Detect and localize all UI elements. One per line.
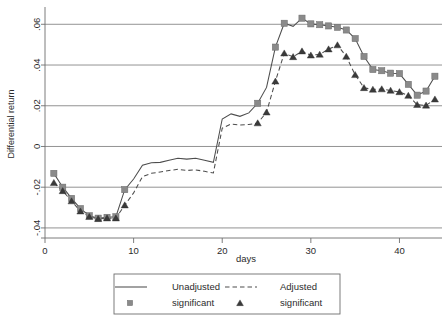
marker-square-17 [343,27,349,33]
marker-square-9 [255,100,261,106]
y-tick-label-3: .02 [31,99,42,112]
marker-square-10 [272,44,278,50]
marker-square-27 [432,73,438,79]
y-tick-label-2: 0 [31,144,42,149]
marker-square-16 [334,24,340,30]
series-line-adjusted [54,45,435,219]
marker-square-19 [361,53,367,59]
marker-triangle-20 [352,71,359,77]
marker-triangle-18 [334,42,341,48]
marker-square-0 [51,170,57,176]
marker-triangle-17 [325,46,332,52]
marker-square-24 [405,81,411,87]
y-axis-title: Differential return [6,90,16,159]
marker-triangle-21 [360,85,367,91]
marker-square-14 [317,22,323,28]
x-tick-labels: 010203040 [42,245,404,256]
chart-axes [41,7,442,238]
marker-square-8 [122,187,128,193]
marker-square-11 [281,20,287,26]
y-tick-labels: -.04-.020.02.04.06 [31,18,42,236]
marker-triangle-28 [422,102,429,108]
x-tick-label-3: 30 [306,245,317,256]
series-line-unadjusted [54,18,435,218]
marker-square-12 [299,15,305,21]
marker-square-25 [414,92,420,98]
marker-triangle-15 [307,52,314,58]
chart-figure: -.04-.020.02.04.06 010203040 Differentia… [0,0,447,317]
y-tick-label-5: .06 [31,18,42,31]
marker-triangle-9 [254,120,261,126]
marker-square-21 [379,68,385,74]
marker-triangle-0 [50,179,57,185]
y-tick-label-1: -.02 [31,179,42,195]
marker-square-23 [396,70,402,76]
y-gridlines [45,24,442,228]
x-tick-label-0: 0 [42,245,47,256]
chart-legend: UnadjustedAdjustedsignificantsignificant [114,274,340,314]
marker-square-22 [388,70,394,76]
series-markers [50,15,438,221]
marker-triangle-11 [272,78,279,84]
x-tick-label-1: 10 [128,245,139,256]
legend-label-1: Adjusted [280,281,317,292]
legend-square-icon [127,300,132,305]
marker-triangle-29 [431,96,438,102]
marker-triangle-8 [121,202,128,208]
marker-triangle-12 [281,50,288,56]
marker-triangle-26 [405,92,412,98]
marker-triangle-13 [290,54,297,60]
x-tick-label-2: 20 [217,245,228,256]
x-tick-label-4: 40 [394,245,405,256]
marker-triangle-10 [263,109,270,115]
series-lines [54,18,435,219]
marker-square-26 [423,88,429,94]
legend-label-0: Unadjusted [172,281,220,292]
differential-return-line-chart: -.04-.020.02.04.06 010203040 Differentia… [0,0,447,317]
marker-square-20 [370,66,376,72]
marker-square-13 [308,21,314,27]
y-tick-label-0: -.04 [31,220,42,236]
x-axis-title: days [236,253,256,264]
marker-triangle-19 [343,53,350,59]
legend-label-2: significant [172,297,215,308]
marker-square-18 [352,35,358,41]
legend-label-3: significant [280,297,323,308]
marker-triangle-14 [298,48,305,54]
y-tick-label-4: .04 [31,58,42,71]
marker-square-15 [325,23,331,29]
